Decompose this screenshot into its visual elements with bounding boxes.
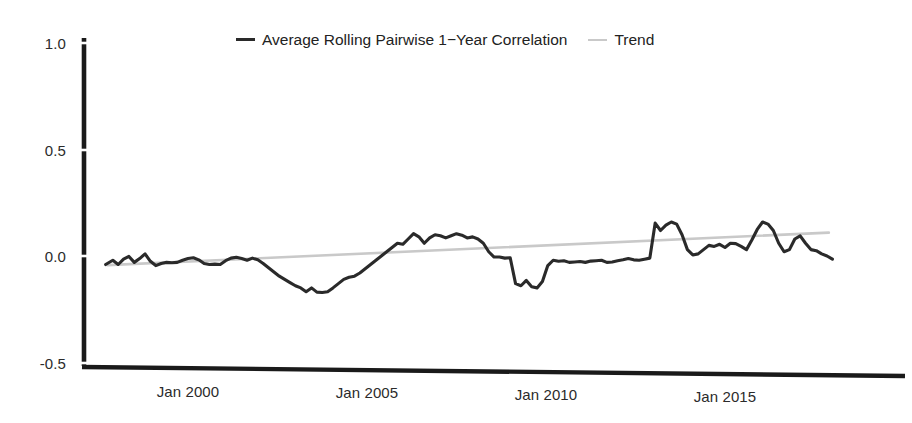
x-tick-label-jan-2005: Jan 2005	[336, 384, 399, 401]
y-tick-label-3: 0.0	[12, 248, 66, 265]
y-tick-label-4: -0.5	[12, 355, 66, 372]
line-swatch-light-icon	[588, 39, 607, 41]
legend-entry-series: Average Rolling Pairwise 1−Year Correlat…	[236, 32, 567, 48]
x-tick-label-jan-2015: Jan 2015	[694, 388, 757, 405]
legend-entry-trend: Trend	[588, 32, 654, 48]
y-tick-label-2: 0.5	[12, 142, 66, 159]
line-swatch-dark-icon	[236, 38, 255, 41]
plot-area	[0, 0, 912, 423]
y-tick-label-1: 1.0	[12, 35, 66, 52]
x-axis-line	[82, 367, 905, 376]
legend-label-trend: Trend	[614, 32, 654, 48]
x-tick-label-jan-2000: Jan 2000	[157, 383, 220, 400]
legend-label-series: Average Rolling Pairwise 1−Year Correlat…	[262, 32, 567, 48]
chart-legend: Average Rolling Pairwise 1−Year Correlat…	[236, 32, 654, 48]
x-tick-label-jan-2010: Jan 2010	[515, 386, 578, 403]
correlation-trend-chart: 1.0 0.5 0.0 -0.5 Jan 2000 Jan 2005 Jan 2…	[0, 0, 912, 423]
series-line	[106, 222, 833, 293]
